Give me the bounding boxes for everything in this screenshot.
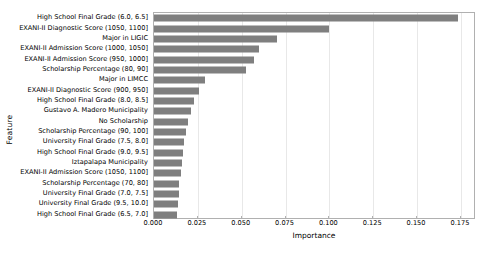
bar (154, 139, 184, 146)
bar (154, 35, 277, 42)
y-axis-tick-label: High School Final Grade (6.0, 6.5] (15, 14, 148, 21)
y-axis-tick-label: Gustavo A. Madero Municipality (15, 107, 148, 114)
bar (154, 87, 199, 94)
y-axis-tick-label: University Final Grade (9.5, 10.0] (15, 200, 148, 207)
plot-area (153, 12, 475, 219)
y-axis-tick-label: High School Final Grade (8.0, 8.5] (15, 97, 148, 104)
bar (154, 56, 254, 63)
y-axis-tick-label: Scholarship Percentage (80, 90] (15, 66, 148, 73)
bar (154, 25, 329, 32)
bar (154, 129, 186, 136)
x-axis-tick-label: 0.175 (450, 219, 469, 227)
y-axis-tick-label: EXANI-II Admission Score (1000, 1050] (15, 45, 148, 52)
bar (154, 180, 179, 187)
bar (154, 149, 183, 156)
x-axis-tick-label: 0.100 (319, 219, 338, 227)
bar (154, 170, 181, 177)
bar (154, 46, 259, 53)
x-axis-tick-label: 0.150 (407, 219, 426, 227)
bar (154, 191, 179, 198)
y-axis-tick-label: High School Final Grade (9.0, 9.5] (15, 148, 148, 155)
y-axis-tick-label: Iztapalapa Municipality (15, 159, 148, 166)
x-axis-tick-label: 0.025 (187, 219, 206, 227)
y-axis-tick-label: Major in LIMCC (15, 76, 148, 83)
y-axis-tick-label: EXANI-II Admission Score (1050, 1100] (15, 169, 148, 176)
bar (154, 77, 205, 84)
y-axis-tick-label: High School Final Grade (6.5, 7.0] (15, 211, 148, 218)
bar (154, 118, 188, 125)
bar (154, 66, 246, 73)
y-axis-tick-label: University Final Grade (7.0, 7.5] (15, 190, 148, 197)
bar (154, 201, 178, 208)
y-axis-tick-label: Major in LIGIC (15, 35, 148, 42)
y-axis-tick-label: Scholarship Percentage (70, 80] (15, 179, 148, 186)
bar (154, 97, 194, 104)
feature-importance-chart: Feature High School Final Grade (6.0, 6.… (0, 0, 496, 259)
x-axis-tick-label: 0.075 (275, 219, 294, 227)
bar (154, 211, 177, 218)
y-axis-tick-label: University Final Grade (7.5, 8.0] (15, 138, 148, 145)
bar (154, 108, 191, 115)
y-axis-tick-label: No Scholarship (15, 117, 148, 124)
y-axis-title-text: Feature (6, 115, 15, 145)
y-axis-tick-labels: High School Final Grade (6.0, 6.5]EXANI-… (18, 12, 151, 219)
bar (154, 160, 182, 167)
y-axis-tick-label: EXANI-II Diagnostic Score (900, 950] (15, 86, 148, 93)
bar-rows (154, 13, 474, 218)
bar (154, 15, 458, 22)
y-axis-tick-label: Scholarship Percentage (90, 100] (15, 128, 148, 135)
x-axis-title: Importance (153, 231, 475, 240)
x-axis-tick-label: 0.050 (231, 219, 250, 227)
y-axis-tick-label: EXANI-II Diagnostic Score (1050, 1100] (15, 24, 148, 31)
x-axis-tick-label: 0.000 (144, 219, 163, 227)
y-axis-tick-label: EXANI-II Admission Score (950, 1000] (15, 55, 148, 62)
x-axis-tick-label: 0.125 (363, 219, 382, 227)
